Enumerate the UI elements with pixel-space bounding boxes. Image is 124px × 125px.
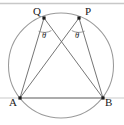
vertex-dot-Q — [42, 16, 45, 19]
chord-group — [20, 18, 103, 98]
chord-PA — [20, 18, 79, 98]
geometry-figure: Q P A B θ θ — [0, 0, 124, 125]
angle-label-theta-Q: θ — [42, 31, 46, 40]
vertex-dot-P — [77, 16, 80, 19]
point-label-P: P — [85, 6, 91, 17]
angle-label-theta-P: θ — [75, 31, 79, 40]
point-label-Q: Q — [33, 6, 41, 17]
circumscribed-circle — [9, 13, 114, 118]
point-label-B: B — [105, 97, 112, 108]
chord-QB — [44, 18, 103, 98]
vertex-dot-group — [18, 16, 104, 99]
point-label-A: A — [9, 97, 17, 108]
chord-QA — [20, 18, 44, 98]
vertex-dot-A — [18, 96, 21, 99]
